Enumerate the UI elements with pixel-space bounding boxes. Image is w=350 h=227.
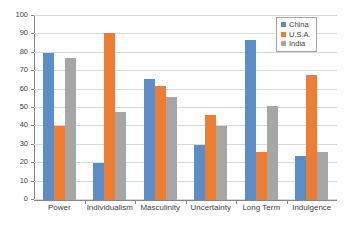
- bar-china-power[interactable]: [43, 53, 54, 200]
- legend-item-china[interactable]: China: [281, 21, 311, 29]
- bar-chart: 0102030405060708090100 PowerIndividualis…: [0, 0, 350, 227]
- y-tick-label-20: 20: [20, 158, 28, 166]
- bar-group-individualism: [85, 16, 136, 200]
- bar-usa-uncertainty[interactable]: [205, 115, 216, 200]
- legend-label-china: China: [289, 21, 309, 29]
- bar-usa-indulgence[interactable]: [306, 75, 317, 200]
- y-tick-label-80: 80: [20, 48, 28, 56]
- y-tick-label-0: 0: [24, 195, 28, 203]
- x-axis-label-masculinity: Masculinity: [135, 204, 186, 213]
- bar-usa-masculinity[interactable]: [155, 86, 166, 200]
- y-tick-label-50: 50: [20, 103, 28, 111]
- legend-label-usa: U.S.A.: [289, 31, 311, 39]
- bar-india-uncertainty[interactable]: [216, 126, 227, 200]
- bar-group-masculinity: [135, 16, 186, 200]
- bar-india-masculinity[interactable]: [166, 97, 177, 200]
- bar-china-masculinity[interactable]: [144, 79, 155, 200]
- bar-china-uncertainty[interactable]: [194, 145, 205, 200]
- bar-usa-individualism[interactable]: [104, 33, 115, 200]
- bar-group-uncertainty: [186, 16, 237, 200]
- y-tick-label-100: 100: [15, 11, 28, 19]
- legend-swatch-icon-china: [281, 22, 286, 27]
- bar-usa-long-term[interactable]: [256, 152, 267, 200]
- bar-india-power[interactable]: [65, 58, 76, 200]
- y-tick-label-10: 10: [20, 177, 28, 185]
- x-axis-label-long-term: Long Term: [236, 204, 287, 213]
- y-tick-label-70: 70: [20, 66, 28, 74]
- x-axis-label-uncertainty: Uncertainty: [186, 204, 237, 213]
- legend-swatch-icon-india: [281, 41, 286, 46]
- y-tick-label-90: 90: [20, 30, 28, 38]
- chart-legend: ChinaU.S.A.India: [276, 17, 317, 52]
- x-axis-labels: PowerIndividualismMasculinityUncertainty…: [34, 204, 337, 213]
- bar-china-indulgence[interactable]: [295, 156, 306, 200]
- bar-india-indulgence[interactable]: [317, 152, 328, 200]
- y-tick-label-60: 60: [20, 85, 28, 93]
- x-axis-label-power: Power: [34, 204, 85, 213]
- y-tick-label-30: 30: [20, 140, 28, 148]
- legend-item-usa[interactable]: U.S.A.: [281, 31, 311, 39]
- legend-item-india[interactable]: India: [281, 40, 311, 48]
- bar-china-individualism[interactable]: [93, 163, 104, 200]
- bar-india-long-term[interactable]: [267, 106, 278, 200]
- bar-india-individualism[interactable]: [115, 112, 126, 200]
- bar-group-power: [34, 16, 85, 200]
- legend-swatch-icon-usa: [281, 32, 286, 37]
- bar-china-long-term[interactable]: [245, 40, 256, 200]
- y-tick-label-40: 40: [20, 122, 28, 130]
- x-axis-label-individualism: Individualism: [85, 204, 136, 213]
- x-axis-label-indulgence: Indulgence: [287, 204, 338, 213]
- bar-usa-power[interactable]: [54, 126, 65, 200]
- legend-label-india: India: [289, 40, 305, 48]
